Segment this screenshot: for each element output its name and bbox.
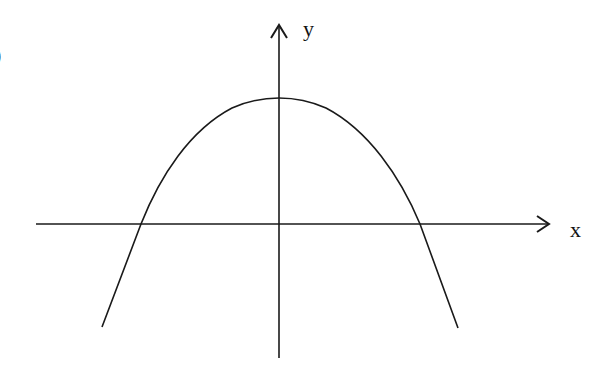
part-label: ) (0, 42, 1, 67)
graph-diagram: ) x y (0, 0, 615, 376)
y-axis: y (271, 16, 314, 358)
x-axis: x (36, 216, 581, 242)
x-axis-label: x (570, 217, 581, 242)
function-curve (102, 98, 458, 328)
y-axis-label: y (303, 16, 314, 41)
